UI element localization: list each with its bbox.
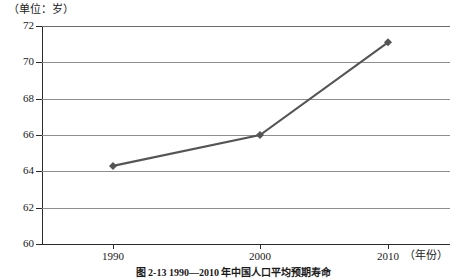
line-chart: 72706866646260 199020002010 （年份） (0, 0, 467, 262)
data-point-marker (109, 162, 117, 170)
series-markers (109, 38, 392, 170)
series-line (113, 42, 388, 166)
figure-caption: 图 2-13 1990—2010 年中国人口平均预期寿命 (0, 266, 467, 279)
x-axis-title: （年份） (404, 249, 448, 262)
series-layer (0, 0, 467, 262)
